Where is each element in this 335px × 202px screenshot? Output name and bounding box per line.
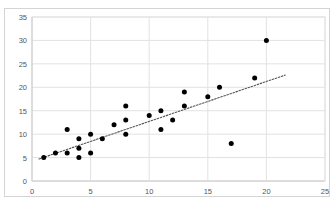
- x-axis-tick-label: 10: [145, 187, 153, 196]
- data-point: [88, 150, 93, 155]
- chart-frame: 051015202530350510152025: [4, 8, 330, 197]
- data-point: [123, 132, 128, 137]
- y-axis-tick-label: 20: [5, 83, 27, 92]
- data-point: [88, 132, 93, 137]
- x-axis-tick-label: 25: [321, 187, 329, 196]
- data-point: [112, 122, 117, 127]
- data-point: [100, 136, 105, 141]
- data-point: [65, 127, 70, 132]
- y-axis-tick-label: 5: [5, 153, 27, 162]
- data-point: [123, 118, 128, 123]
- clipped-top-text: [0, 0, 335, 4]
- y-axis-tick-label: 25: [5, 59, 27, 68]
- y-axis-tick-label: 35: [5, 13, 27, 22]
- x-axis-tick-label: 20: [262, 187, 270, 196]
- y-axis-tick-label: 30: [5, 36, 27, 45]
- plot-svg: [5, 9, 331, 198]
- data-point: [65, 150, 70, 155]
- data-point: [205, 94, 210, 99]
- data-point: [170, 118, 175, 123]
- scatter-plot: 051015202530350510152025: [5, 9, 329, 196]
- data-point: [264, 38, 269, 43]
- data-point: [53, 150, 58, 155]
- plot-background: [32, 17, 325, 181]
- data-point: [123, 104, 128, 109]
- data-point: [41, 155, 46, 160]
- data-point: [217, 85, 222, 90]
- x-axis-tick-label: 0: [30, 187, 34, 196]
- data-point: [158, 108, 163, 113]
- y-axis-tick-label: 10: [5, 130, 27, 139]
- data-point: [158, 127, 163, 132]
- data-point: [76, 146, 81, 151]
- y-axis-tick-label: 0: [5, 177, 27, 186]
- data-point: [76, 136, 81, 141]
- data-point: [182, 89, 187, 94]
- data-point: [229, 141, 234, 146]
- x-axis-tick-label: 15: [204, 187, 212, 196]
- data-point: [252, 75, 257, 80]
- data-point: [182, 104, 187, 109]
- data-point: [76, 155, 81, 160]
- data-point: [147, 113, 152, 118]
- x-axis-tick-label: 5: [89, 187, 93, 196]
- y-axis-tick-label: 15: [5, 106, 27, 115]
